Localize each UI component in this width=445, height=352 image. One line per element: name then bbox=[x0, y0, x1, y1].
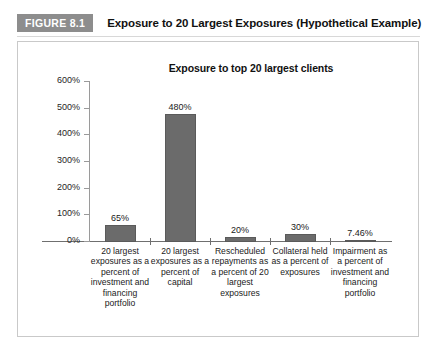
bar[interactable] bbox=[165, 114, 196, 242]
y-axis-tick-label: 100% bbox=[30, 209, 80, 218]
bar[interactable] bbox=[105, 225, 136, 242]
bar-slot: 20% bbox=[210, 82, 270, 242]
bar-value-label: 20% bbox=[210, 225, 270, 235]
figure-title: Exposure to 20 Largest Exposures (Hypoth… bbox=[107, 17, 421, 29]
bar-value-label: 65% bbox=[90, 213, 150, 223]
bar-series: 65%480%20%30%7.46% bbox=[90, 81, 392, 242]
category-label: Rescheduled repayments as a percent of 2… bbox=[210, 246, 270, 298]
category-label: 20 largest exposures as a percent of cap… bbox=[150, 246, 210, 288]
bar-value-label: 480% bbox=[150, 102, 210, 112]
header-divider bbox=[17, 36, 420, 37]
y-axis-tick-label: 400% bbox=[30, 129, 80, 138]
bar-slot: 480% bbox=[150, 82, 210, 242]
category-label: 20 largest exposures as a percent of inv… bbox=[90, 246, 150, 308]
figure-header: FIGURE 8.1 Exposure to 20 Largest Exposu… bbox=[17, 13, 420, 33]
chart-frame: Exposure to top 20 largest clients 600%5… bbox=[17, 41, 419, 337]
bar-value-label: 30% bbox=[270, 222, 330, 232]
y-axis-tick-label: 600% bbox=[30, 76, 80, 85]
category-label: Impairment as a percent of investment an… bbox=[330, 246, 390, 298]
bar[interactable] bbox=[285, 234, 316, 242]
y-axis-tick-label: 0% bbox=[30, 236, 80, 245]
category-label: Collateral held as a percent of exposure… bbox=[270, 246, 330, 277]
bar-slot: 7.46% bbox=[330, 82, 390, 242]
y-axis-tick-label: 200% bbox=[30, 183, 80, 192]
figure-number-badge: FIGURE 8.1 bbox=[17, 14, 93, 32]
y-axis-tick-label: 500% bbox=[30, 103, 80, 112]
y-axis-tick-label: 300% bbox=[30, 156, 80, 165]
plot-area: 600%500%400%300%200%100%0% 65%480%20%30%… bbox=[18, 42, 420, 338]
bar-slot: 65% bbox=[90, 82, 150, 242]
bar-slot: 30% bbox=[270, 82, 330, 242]
bar-value-label: 7.46% bbox=[330, 228, 390, 238]
bar[interactable] bbox=[345, 240, 376, 242]
category-labels: 20 largest exposures as a percent of inv… bbox=[90, 246, 392, 331]
bar[interactable] bbox=[225, 237, 256, 242]
